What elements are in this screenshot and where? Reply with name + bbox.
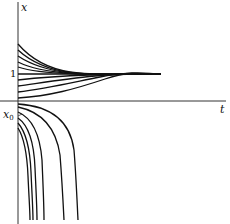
- x0-label-sub: 0: [9, 114, 13, 122]
- lower-curves: [18, 73, 161, 98]
- level-one-label: 1: [10, 69, 16, 79]
- diverging-curves: [18, 104, 78, 220]
- x0-label: x0: [3, 109, 14, 122]
- x-axis-label: x: [21, 2, 27, 13]
- upper-curves: [18, 44, 161, 75]
- phase-plot: [0, 0, 230, 224]
- t-axis-label: t: [220, 104, 224, 115]
